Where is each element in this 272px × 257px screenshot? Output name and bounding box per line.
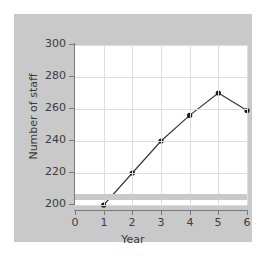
y-axis-tick-label: 220 xyxy=(36,166,66,177)
y-axis-tick xyxy=(69,108,75,109)
y-axis-line xyxy=(74,43,75,205)
y-axis-tick-label: 260 xyxy=(36,102,66,113)
x-axis-tick-label: 2 xyxy=(122,217,142,229)
y-axis-tick xyxy=(69,172,75,173)
x-axis-tick-label: 1 xyxy=(94,217,114,229)
gridline-horizontal xyxy=(75,205,247,206)
gridline-vertical xyxy=(190,45,191,205)
y-axis-tick xyxy=(69,76,75,77)
y-axis-tick xyxy=(69,44,75,45)
x-axis-tick-label: 5 xyxy=(208,217,228,229)
chart-figure: Number of staff Year 2002202402602803000… xyxy=(14,14,252,242)
y-axis-tick-label: 200 xyxy=(36,198,66,209)
gridline-vertical xyxy=(132,45,133,205)
y-axis-tick-label: 240 xyxy=(36,134,66,145)
x-axis-tick xyxy=(218,210,219,215)
gridline-vertical xyxy=(161,45,162,205)
y-axis-tick xyxy=(69,140,75,141)
gridline-vertical xyxy=(104,45,105,205)
y-axis-tick-label: 300 xyxy=(36,38,66,49)
axis-break-band xyxy=(75,194,247,200)
x-axis-tick-label: 3 xyxy=(151,217,171,229)
x-axis-title: Year xyxy=(14,233,252,246)
x-axis-tick-label: 0 xyxy=(65,217,85,229)
gridline-vertical xyxy=(218,45,219,205)
x-axis-tick xyxy=(247,210,248,215)
y-axis-tick xyxy=(69,204,75,205)
x-axis-tick xyxy=(161,210,162,215)
x-axis-tick xyxy=(104,210,105,215)
y-axis-tick-label: 280 xyxy=(36,70,66,81)
x-axis-tick xyxy=(132,210,133,215)
plot-area xyxy=(75,44,247,205)
x-axis-tick xyxy=(75,210,76,215)
gridline-vertical xyxy=(247,45,248,205)
x-axis-tick-label: 6 xyxy=(237,217,257,229)
x-axis-tick-label: 4 xyxy=(180,217,200,229)
x-axis-tick xyxy=(190,210,191,215)
